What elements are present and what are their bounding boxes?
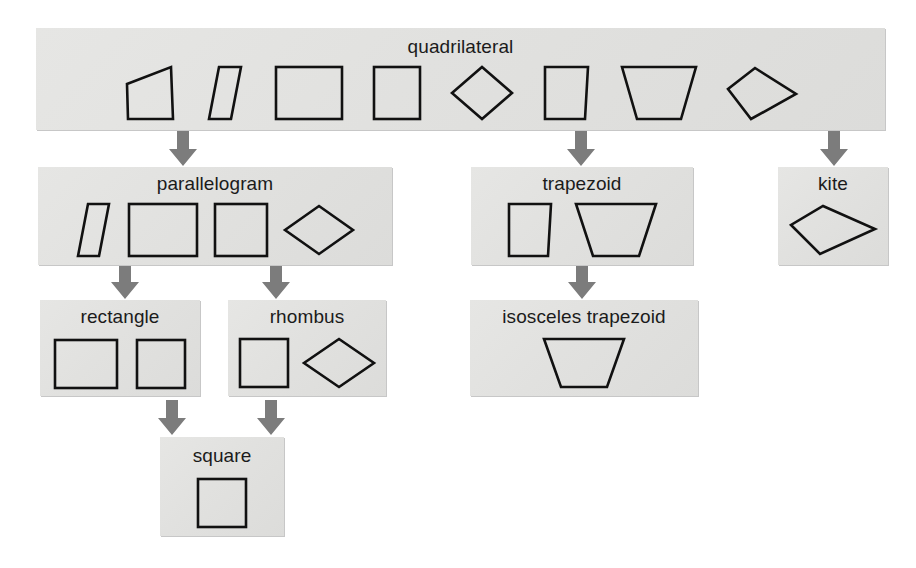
shape-row-rectangle xyxy=(40,336,200,392)
node-label-rhombus: rhombus xyxy=(228,306,386,328)
quadrilateral-hierarchy-diagram: quadrilateral xyxy=(0,0,916,568)
arrow-rhombus-to-square xyxy=(256,400,286,436)
shape-row-kite xyxy=(778,201,888,259)
arrow-rectangle-to-square xyxy=(157,400,187,436)
shape-row-isosceles-trapezoid xyxy=(470,334,698,392)
shape-kite-icon xyxy=(725,64,799,122)
arrow-quadrilateral-to-trapezoid xyxy=(566,131,596,167)
node-trapezoid[interactable]: trapezoid xyxy=(471,167,693,265)
node-square[interactable]: square xyxy=(160,437,284,536)
node-label-kite: kite xyxy=(778,173,888,195)
shape-square-icon xyxy=(195,476,249,530)
shape-right-trapezoid-icon xyxy=(541,64,593,122)
shape-isosceles-trapezoid-icon xyxy=(541,336,627,390)
node-rectangle[interactable]: rectangle xyxy=(40,300,200,396)
node-label-square: square xyxy=(160,445,284,467)
shape-rhombus-diamond-icon xyxy=(301,336,377,390)
arrow-parallelogram-to-rhombus xyxy=(261,266,291,300)
shape-irregular-quadrilateral-icon xyxy=(123,64,179,122)
shape-row-quadrilateral xyxy=(36,62,885,124)
shape-row-rhombus xyxy=(228,334,386,392)
arrow-quadrilateral-to-kite xyxy=(819,131,849,167)
shape-kite-icon xyxy=(787,203,879,257)
shape-isosceles-trapezoid-icon xyxy=(573,201,659,259)
node-label-rectangle: rectangle xyxy=(40,306,200,328)
shape-rhombus-diamond-icon xyxy=(282,201,356,259)
node-quadrilateral[interactable]: quadrilateral xyxy=(36,28,885,130)
node-parallelogram[interactable]: parallelogram xyxy=(38,167,392,265)
shape-row-square xyxy=(160,475,284,531)
node-label-parallelogram: parallelogram xyxy=(38,173,392,195)
shape-wide-rectangle-icon xyxy=(126,201,200,259)
arrow-quadrilateral-to-parallelogram xyxy=(168,131,198,167)
shape-right-trapezoid-icon xyxy=(505,201,557,259)
arrow-parallelogram-to-rectangle xyxy=(110,266,140,300)
node-label-quadrilateral: quadrilateral xyxy=(36,36,885,58)
shape-narrow-parallelogram-icon xyxy=(205,64,247,122)
shape-square-icon xyxy=(212,201,270,259)
shape-square-icon xyxy=(134,337,188,391)
shape-tall-rectangle-icon xyxy=(371,64,423,122)
shape-row-parallelogram xyxy=(38,199,392,261)
node-label-isosceles-trapezoid: isosceles trapezoid xyxy=(470,306,698,328)
arrow-trapezoid-to-isosceles-trapezoid xyxy=(567,266,597,300)
shape-narrow-parallelogram-icon xyxy=(74,201,114,259)
shape-rhombus-diamond-icon xyxy=(449,64,515,122)
shape-wide-rectangle-icon xyxy=(273,64,345,122)
node-rhombus[interactable]: rhombus xyxy=(228,300,386,396)
shape-isosceles-trapezoid-icon xyxy=(619,64,699,122)
node-kite[interactable]: kite xyxy=(778,167,888,265)
shape-square-icon xyxy=(237,336,291,390)
node-isosceles-trapezoid[interactable]: isosceles trapezoid xyxy=(470,300,698,396)
shape-wide-rectangle-icon xyxy=(52,337,120,391)
node-label-trapezoid: trapezoid xyxy=(471,173,693,195)
shape-row-trapezoid xyxy=(471,199,693,261)
